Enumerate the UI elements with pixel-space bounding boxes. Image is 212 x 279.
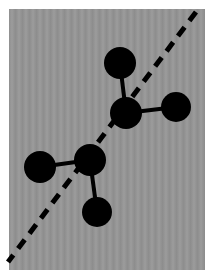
atom (104, 47, 136, 79)
molecule-diagram (0, 0, 212, 279)
atom (82, 197, 112, 227)
atom (74, 144, 106, 176)
upper-right-molecule (104, 47, 191, 129)
atom (24, 151, 56, 183)
atom (110, 97, 142, 129)
atom (161, 92, 191, 122)
molecules (24, 47, 191, 227)
